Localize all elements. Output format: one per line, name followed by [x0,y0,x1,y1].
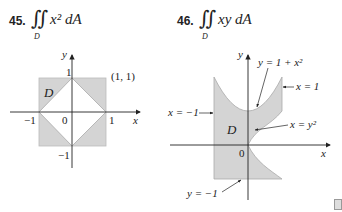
curve-label-top: y = 1 + x² [257,56,303,68]
curve-label-left: x = −1 [167,106,199,118]
origin-label: 0 [62,114,68,126]
tick-x-1: 1 [109,114,115,126]
page-corner-icon [334,199,342,210]
curve-label-parabola: x = y² [289,118,317,130]
tick-y-1: 1 [66,66,72,78]
corner-label: (1, 1) [111,70,135,83]
x-axis-label: x [132,114,138,126]
figure-45: y x 1 −1 −1 1 0 (1, 1) D [10,48,140,168]
origin-label: 0 [239,147,245,159]
figure-46: y x 0 D y = 1 + x² x = 1 x = −1 x = y² y… [167,48,330,200]
region-label-D: D [226,122,237,137]
y-axis-label: y [237,48,243,60]
curve-label-bottom: y = −1 [186,187,218,199]
y-axis-label: y [61,48,67,60]
tick-y-neg1: −1 [58,149,70,161]
tick-x-neg1: −1 [24,114,36,126]
region-label-D: D [43,85,54,100]
x-axis-label: x [320,147,326,159]
curve-label-right: x = 1 [295,80,319,92]
